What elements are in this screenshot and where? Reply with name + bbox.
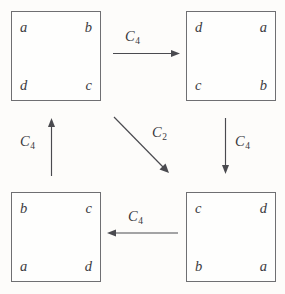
arrow-top-label: C4 [125,29,139,44]
square-bottom-right-corner-bl: b [195,259,202,274]
square-top-left-corner-tl: a [20,20,27,35]
square-bottom-right-corner-br: a [260,259,267,274]
square-top-left-corner-br: c [86,78,92,93]
square-top-left-corner-tr: b [85,20,92,35]
arrow-right-label: C4 [235,134,249,149]
square-top-right-corner-bl: c [195,78,201,93]
square-top-right-corner-br: b [260,78,267,93]
arrow-left-label: C4 [20,134,34,149]
square-bottom-left: b c a d [11,192,101,282]
square-bottom-right-corner-tl: c [195,201,201,216]
arrow-top [113,50,180,57]
square-bottom-right-corner-tr: d [260,201,267,216]
square-bottom-left-corner-tr: c [86,201,92,216]
square-bottom-left-corner-tl: b [20,201,27,216]
arrow-bottom-label: C4 [128,209,142,224]
arrow-diagonal-label: C2 [152,125,166,140]
square-bottom-left-corner-bl: a [20,259,27,274]
arrow-bottom [107,230,178,237]
square-bottom-right: c d b a [186,192,276,282]
square-top-left: a b d c [11,11,101,101]
square-bottom-left-corner-br: d [85,259,92,274]
arrow-left [48,118,55,176]
square-top-right-corner-tr: a [260,20,267,35]
square-top-left-corner-bl: d [20,78,27,93]
square-top-right: d a c b [186,11,276,101]
square-top-right-corner-tl: d [195,20,202,35]
diagram-canvas: C4 C4 C4 C4 C2 a b d c d a c b b c a d c… [0,0,285,294]
arrow-right [222,118,229,174]
